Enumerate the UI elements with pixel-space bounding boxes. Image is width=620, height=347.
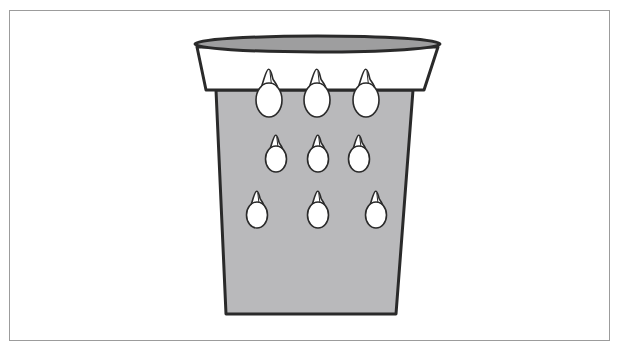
cup-diagram: [0, 0, 620, 347]
cup-rim-opening: [195, 36, 440, 52]
